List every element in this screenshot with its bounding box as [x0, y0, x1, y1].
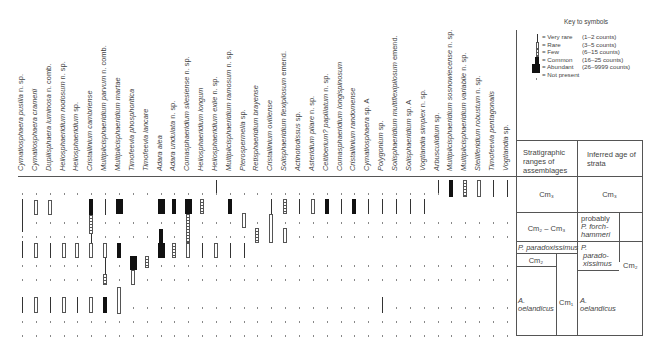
species-label: Heliosphaeridium exile n. sp.	[210, 77, 219, 172]
legend-entry-counts: (26–9999 counts)	[582, 63, 630, 70]
not-present-dot	[396, 193, 397, 195]
rare-bar	[477, 180, 481, 197]
row4-range-line2: oelandicus	[518, 304, 554, 313]
species-label: Solisphaeridium flexipilosum emend.	[279, 51, 288, 171]
rare-bar	[34, 200, 38, 215]
not-present-dot	[396, 335, 397, 337]
not-present-dot	[36, 279, 37, 281]
not-present-dot	[174, 236, 175, 238]
not-present-dot	[396, 321, 397, 323]
legend-entry-counts: (16–25 counts)	[582, 56, 623, 63]
not-present-dot	[202, 279, 203, 281]
not-present-dot	[327, 236, 328, 238]
rare-bar	[89, 297, 93, 313]
legend-rare-symbol	[536, 42, 539, 49]
not-present-dot	[271, 265, 272, 267]
not-present-dot	[313, 321, 314, 323]
species-label: Polygonium sp.	[376, 120, 385, 171]
not-present-dot	[479, 321, 480, 323]
not-present-dot	[382, 265, 383, 267]
not-present-dot	[244, 279, 245, 281]
not-present-dot	[465, 279, 466, 281]
species-label: Multiplicisphaeridium martae	[113, 77, 122, 171]
not-present-dot	[133, 335, 134, 337]
not-present-dot	[257, 279, 258, 281]
not-present-dot	[451, 265, 452, 267]
not-present-dot	[147, 307, 148, 309]
legend-abundant-symbol	[532, 64, 540, 73]
not-present-dot	[174, 307, 175, 309]
not-present-dot	[77, 222, 78, 224]
legend-few-symbol	[536, 49, 539, 57]
rare-bar	[89, 243, 93, 258]
not-present-dot	[133, 321, 134, 323]
not-present-dot	[507, 279, 508, 281]
rare-bar	[117, 287, 121, 314]
species-label: Retisphaeridium brayense	[251, 85, 260, 171]
not-present-dot	[438, 335, 439, 337]
species-label: Pterospermella sp.	[238, 109, 247, 171]
not-present-dot	[119, 193, 120, 195]
not-present-dot	[216, 321, 217, 323]
species-label: Heliosphaeridium nodosum n. sp.	[58, 61, 67, 171]
header-inferred-age: Inferred age of strata	[587, 150, 639, 168]
few-bar	[255, 228, 259, 243]
very-rare-bar	[438, 180, 439, 193]
not-present-dot	[91, 335, 92, 337]
row2-age-line3: hammeri	[581, 230, 610, 239]
not-present-dot	[451, 279, 452, 281]
species-label: Arbusculidium sp.	[432, 113, 441, 171]
not-present-dot	[493, 222, 494, 224]
not-present-dot	[188, 335, 189, 337]
not-present-dot	[174, 222, 175, 224]
not-present-dot	[216, 265, 217, 267]
not-present-dot	[271, 279, 272, 281]
not-present-dot	[465, 335, 466, 337]
rare-bar	[75, 243, 79, 258]
species-label: Cymatiosphaera sp. A	[362, 99, 371, 171]
very-rare-bar	[382, 297, 383, 313]
not-present-dot	[133, 307, 134, 309]
not-present-dot	[230, 307, 231, 309]
not-present-dot	[493, 265, 494, 267]
not-present-dot	[438, 265, 439, 267]
not-present-dot	[507, 335, 508, 337]
common-bar	[325, 199, 329, 214]
not-present-dot	[271, 193, 272, 195]
cm2-side-divider	[619, 212, 620, 262]
header-divider	[18, 176, 516, 177]
rare-bar	[62, 297, 66, 313]
not-present-dot	[368, 236, 369, 238]
common-bar	[352, 199, 356, 214]
not-present-dot	[244, 307, 245, 309]
not-present-dot	[299, 222, 300, 224]
row3-paradoxissimus-band: P. paradoxissimus	[518, 243, 578, 252]
not-present-dot	[257, 222, 258, 224]
not-present-dot	[188, 265, 189, 267]
row2-range: Cm₂ – Cm₃	[516, 224, 577, 233]
species-label: Multiplicisphaeridium variabile n. sp.	[459, 53, 468, 171]
species-label: Stelliferidium robustum n. sp.	[473, 76, 482, 171]
table-mid-divider-lower	[577, 212, 578, 336]
very-rare-bar	[22, 297, 23, 313]
not-present-dot	[77, 236, 78, 238]
not-present-dot	[216, 335, 217, 337]
very-rare-bar	[202, 243, 203, 258]
header-row-divider	[516, 176, 643, 177]
not-present-dot	[438, 222, 439, 224]
not-present-dot	[188, 321, 189, 323]
not-present-dot	[147, 279, 148, 281]
not-present-dot	[202, 307, 203, 309]
not-present-dot	[271, 307, 272, 309]
not-present-dot	[22, 236, 23, 238]
not-present-dot	[341, 236, 342, 238]
not-present-dot	[105, 321, 106, 323]
not-present-dot	[410, 236, 411, 238]
not-present-dot	[77, 265, 78, 267]
not-present-dot	[285, 193, 286, 195]
not-present-dot	[50, 265, 51, 267]
table-bottom-border	[516, 335, 642, 336]
not-present-dot	[341, 265, 342, 267]
not-present-dot	[424, 321, 425, 323]
very-rare-bar	[22, 241, 23, 258]
